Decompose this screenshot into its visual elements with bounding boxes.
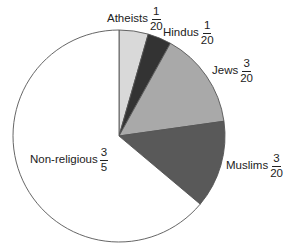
label-jews: Jews 3 20 (212, 58, 253, 84)
label-non-religious: Non-religious 3 5 (30, 147, 108, 173)
label-text: Jews (212, 65, 238, 77)
label-hindus: Hindus 1 20 (163, 20, 214, 46)
fraction: 1 20 (201, 20, 214, 46)
fraction: 3 5 (100, 147, 108, 173)
label-text: Atheists (107, 13, 148, 25)
label-text: Muslims (226, 160, 268, 172)
fraction: 1 20 (150, 6, 163, 32)
label-text: Non-religious (30, 154, 98, 166)
label-atheists: Atheists 1 20 (107, 6, 163, 32)
pie-chart (0, 0, 290, 251)
fraction: 3 20 (240, 58, 253, 84)
label-muslims: Muslims 3 20 (226, 153, 283, 179)
label-text: Hindus (163, 27, 199, 39)
fraction: 3 20 (270, 153, 283, 179)
